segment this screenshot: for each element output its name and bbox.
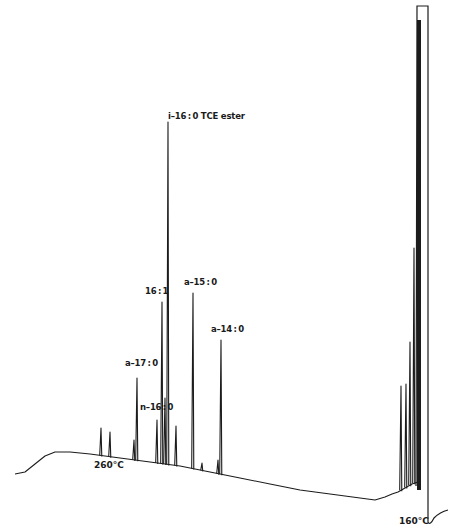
peak-a-17-0 [136, 378, 138, 461]
peak-16-1 [161, 302, 163, 465]
peak-unlabeled [409, 342, 411, 486]
peak-a-15-0 [192, 293, 194, 470]
chromatogram-plot [0, 0, 462, 530]
peak-label-a-17-0: a–17 : 0 [125, 358, 158, 368]
peak-unlabeled [413, 248, 415, 484]
peak-unlabeled [133, 440, 135, 461]
peak-label-a-15-0: a–15 : 0 [184, 277, 217, 287]
peak-unlabeled [400, 386, 402, 491]
peak-unlabeled [175, 426, 177, 466]
peak-unlabeled [100, 428, 102, 456]
peak-unlabeled [217, 460, 219, 475]
solvent-peak [416, 6, 448, 523]
peak-label-16-1: 16 : 1 [145, 286, 168, 296]
peak-unlabeled [405, 384, 407, 488]
chromatogram-trace [15, 122, 418, 500]
peak-a-14-0 [220, 340, 222, 475]
temperature-marker-160: 160°C [399, 516, 429, 526]
peak-label-n-16-0: n–16 : 0 [140, 402, 173, 412]
baseline [15, 452, 418, 500]
peak-n-16-0 [156, 420, 158, 464]
peak-unlabeled [109, 432, 111, 458]
temperature-marker-260: 260°C [94, 460, 124, 470]
peak-label-a-14-0: a–14 : 0 [211, 324, 244, 334]
solvent-peak-fill [417, 20, 421, 490]
peak-label-i-16-0-tce-ester: i–16 : 0 TCE ester [168, 111, 245, 121]
